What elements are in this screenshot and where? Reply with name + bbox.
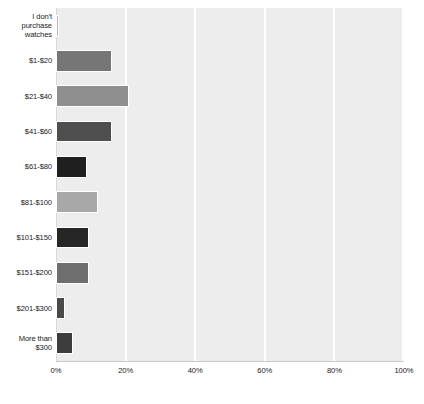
x-axis-tick-labels: 0%20%40%60%80%100% — [56, 361, 404, 381]
category-label-line: $61-$80 — [25, 162, 52, 171]
category-label-line: $41-$60 — [25, 127, 52, 136]
category-label-line: purchase — [22, 21, 52, 30]
category-label: $41-$60 — [0, 114, 52, 149]
bar — [56, 15, 59, 37]
category-label-line: More than — [19, 334, 52, 343]
bar — [56, 50, 112, 72]
bar — [56, 332, 73, 354]
category-label: $151-$200 — [0, 255, 52, 290]
bar-row — [56, 191, 404, 213]
category-label-line: I don't — [32, 12, 52, 21]
bar-row — [56, 15, 404, 37]
bar — [56, 121, 112, 143]
x-tick-label: 100% — [394, 366, 413, 375]
bar — [56, 85, 129, 107]
category-label: $61-$80 — [0, 149, 52, 184]
category-label-line: $1-$20 — [29, 56, 52, 65]
category-label-line: $201-$300 — [17, 304, 52, 313]
category-label: $101-$150 — [0, 220, 52, 255]
plot-area — [56, 8, 404, 361]
bar-row — [56, 50, 404, 72]
category-label: More than$300 — [0, 326, 52, 361]
category-axis-labels: I don'tpurchasewatches$1-$20$21-$40$41-$… — [0, 8, 52, 361]
bar-row — [56, 262, 404, 284]
category-label: $21-$40 — [0, 79, 52, 114]
x-tick-label: 60% — [257, 366, 272, 375]
bar-row — [56, 121, 404, 143]
category-label-line: watches — [25, 30, 52, 39]
bar-row — [56, 156, 404, 178]
x-tick-label: 80% — [327, 366, 342, 375]
bar-row — [56, 332, 404, 354]
category-label-line: $81-$100 — [21, 198, 52, 207]
bar — [56, 262, 89, 284]
bar-row — [56, 85, 404, 107]
bar-chart: I don'tpurchasewatches$1-$20$21-$40$41-$… — [0, 0, 424, 404]
x-tick-label: 40% — [188, 366, 203, 375]
x-tick-label: 20% — [118, 366, 133, 375]
x-tick-label: 0% — [51, 366, 62, 375]
bar — [56, 156, 87, 178]
category-label: $201-$300 — [0, 290, 52, 325]
bar-row — [56, 297, 404, 319]
category-label-line: $101-$150 — [17, 233, 52, 242]
category-label: I don'tpurchasewatches — [0, 8, 52, 43]
category-label-line: $300 — [36, 343, 53, 352]
category-label-line: $21-$40 — [25, 92, 52, 101]
bar — [56, 191, 98, 213]
category-label: $1-$20 — [0, 43, 52, 78]
category-label: $81-$100 — [0, 185, 52, 220]
bar — [56, 227, 89, 249]
bar-row — [56, 227, 404, 249]
bar — [56, 297, 65, 319]
category-label-line: $151-$200 — [17, 268, 52, 277]
